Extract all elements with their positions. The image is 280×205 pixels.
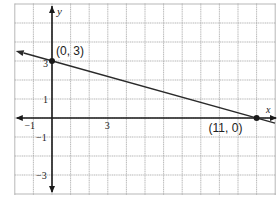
point-marker xyxy=(254,115,260,121)
y-tick-label: −3 xyxy=(36,170,47,181)
point-label: (0, 3) xyxy=(56,44,84,58)
tick-labels: −1331−1−3 xyxy=(24,58,109,181)
y-axis-label: y xyxy=(56,5,62,17)
x-tick-label: 3 xyxy=(105,120,110,131)
x-axis-right-arrow-icon xyxy=(270,115,277,121)
point-marker xyxy=(49,58,55,64)
y-axis-down-arrow-icon xyxy=(49,186,55,193)
grid-lines xyxy=(15,4,276,196)
y-tick-label: 3 xyxy=(43,58,48,69)
x-axis-left-arrow-icon xyxy=(16,115,23,121)
x-tick-label: −1 xyxy=(24,120,35,131)
point-label: (11, 0) xyxy=(209,121,243,135)
graph-line xyxy=(24,53,275,123)
line-left-arrow-icon xyxy=(16,50,25,56)
y-axis-up-arrow-icon xyxy=(49,6,55,13)
x-axis-label: x xyxy=(265,104,271,115)
y-tick-label: 1 xyxy=(43,94,48,105)
y-tick-label: −1 xyxy=(36,132,47,143)
coordinate-graph: yx −1331−1−3 (0, 3)(11, 0) xyxy=(0,0,280,205)
